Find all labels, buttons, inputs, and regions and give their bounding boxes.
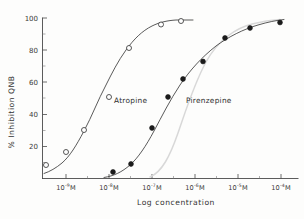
x-tick-unit-0: M [70, 184, 76, 192]
svg-text:10-7M: 10-7M [142, 183, 162, 192]
svg-text:10-5M: 10-5M [228, 183, 248, 192]
svg-text:10-9M: 10-9M [56, 183, 76, 192]
x-tick-label-1e-5: 10-5M [228, 183, 248, 192]
x-tick-base-2: 10 [142, 184, 151, 192]
y-tick-label-60: 60 [29, 79, 38, 87]
x-tick-base-0: 10 [56, 184, 65, 192]
data-point [82, 128, 87, 133]
data-point [64, 150, 69, 155]
data-point [159, 22, 164, 27]
data-point [127, 46, 132, 51]
data-point [166, 95, 171, 100]
x-tick-label-1e-6: 10-6M [185, 183, 205, 192]
x-tick-unit-5: M [285, 184, 291, 192]
x-tick-base-1: 10 [99, 184, 108, 192]
data-point [179, 19, 184, 24]
x-tick-unit-1: M [113, 184, 119, 192]
y-axis-ticks [43, 18, 48, 163]
x-tick-label-1e-9: 10-9M [56, 183, 76, 192]
data-point [201, 59, 206, 64]
series-label-pirenzepine: Pirenzepine [186, 96, 232, 105]
x-tick-unit-3: M [199, 184, 205, 192]
dose-response-chart: 100 80 60 40 20 10-9M [0, 0, 304, 219]
svg-text:10-4M: 10-4M [271, 183, 291, 192]
svg-text:10-8M: 10-8M [99, 183, 119, 192]
data-point [107, 95, 112, 100]
data-point [111, 170, 116, 175]
data-point [44, 163, 49, 168]
data-point [248, 26, 253, 31]
y-tick-label-80: 80 [29, 47, 38, 55]
x-tick-base-5: 10 [271, 184, 280, 192]
svg-text:10-6M: 10-6M [185, 183, 205, 192]
y-tick-label-100: 100 [25, 15, 38, 23]
x-tick-base-4: 10 [228, 184, 237, 192]
chart-figure: 100 80 60 40 20 10-9M [0, 0, 304, 219]
y-tick-label-20: 20 [29, 143, 38, 151]
series-label-atropine: Atropine [114, 96, 147, 105]
y-axis-labels: 100 80 60 40 20 [25, 15, 38, 152]
x-tick-base-3: 10 [185, 184, 194, 192]
x-tick-label-1e-4: 10-4M [271, 183, 291, 192]
data-point [150, 126, 155, 131]
data-point [129, 162, 134, 167]
x-tick-unit-4: M [242, 184, 248, 192]
data-point [278, 20, 283, 25]
y-axis-title: % Inhibition QNB [7, 75, 16, 148]
x-axis-ticks [66, 174, 281, 179]
y-tick-label-40: 40 [29, 111, 38, 119]
data-point [223, 36, 228, 41]
x-tick-label-1e-7: 10-7M [142, 183, 162, 192]
x-tick-unit-2: M [156, 184, 162, 192]
x-tick-label-1e-8: 10-8M [99, 183, 119, 192]
x-axis-title: Log concentration [137, 198, 215, 207]
atropine-points [44, 19, 184, 168]
x-axis-labels: 10-9M 10-8M 10-7M 10-6M 10-5M [56, 183, 291, 192]
data-point [181, 77, 186, 82]
